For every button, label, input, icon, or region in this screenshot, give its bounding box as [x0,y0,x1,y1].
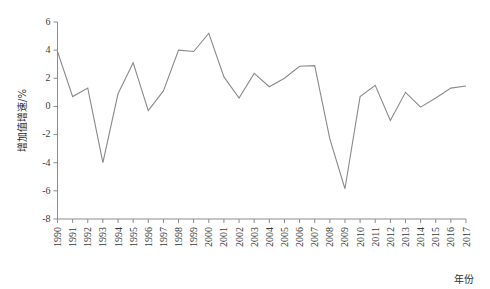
x-tick-label: 1993 [97,227,108,247]
x-tick-label: 2006 [294,227,305,247]
x-axis-title-text: 年份 [454,273,474,285]
x-tick-label: 1990 [52,227,63,247]
y-tick-label: -8 [42,213,50,224]
x-tick-label: 1995 [128,227,139,247]
y-tick-label: -4 [42,157,50,168]
line-chart: 6420-2-4-6-81990199119921993199419951996… [0,0,490,289]
x-tick-label: 2011 [370,227,381,247]
x-tick-label: 2002 [234,227,245,247]
x-tick-label: 2000 [203,227,214,247]
x-tick-label: 1991 [67,227,78,247]
x-tick-label: 2016 [445,227,456,247]
x-tick-label: 1997 [158,227,169,247]
y-tick-label: -2 [42,128,50,139]
x-tick-label: 2017 [461,227,472,247]
x-tick-label: 2001 [218,227,229,247]
x-tick-label: 1992 [82,227,93,247]
x-tick-label: 2013 [400,227,411,247]
x-tick-label: 2015 [430,227,441,247]
x-tick-label: 2009 [339,227,350,247]
x-tick-label: 2005 [279,227,290,247]
y-tick-label: 6 [46,16,51,27]
x-tick-label: 1994 [113,227,124,247]
chart-canvas: 6420-2-4-6-81990199119921993199419951996… [0,0,490,289]
y-axis-title-text: 增加值增速/% [16,89,28,152]
x-tick-label: 2012 [385,227,396,247]
x-tick-label: 2008 [324,227,335,247]
data-series-line [58,33,467,188]
x-tick-label: 2003 [249,227,260,247]
y-tick-label: 2 [46,72,51,83]
y-tick-label: 0 [46,100,51,111]
y-tick-label: -6 [42,185,50,196]
x-tick-label: 1996 [143,227,154,247]
x-tick-label: 2004 [264,227,275,247]
x-tick-label: 1998 [173,227,184,247]
x-tick-label: 2010 [355,227,366,247]
x-tick-label: 1999 [188,227,199,247]
x-tick-label: 2007 [309,227,320,247]
x-tick-label: 2014 [415,227,426,247]
y-tick-label: 4 [46,44,51,55]
